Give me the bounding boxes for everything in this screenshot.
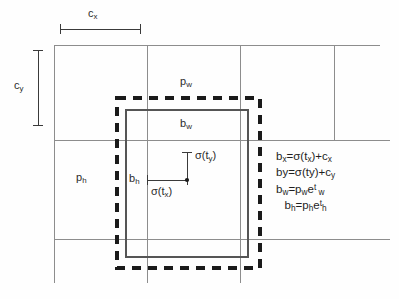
ph-label: ph [76, 172, 87, 185]
grid-lines [54, 45, 390, 283]
formula-bw: bw=pwet w [276, 183, 335, 197]
cy-label: cy [14, 80, 23, 93]
sigma-tx-measure [147, 175, 187, 185]
formula-block: bx=σ(tx)+cx by=σ(ty)+cy bw=pwet w bh=phe… [276, 150, 335, 216]
formula-bx: bx=σ(tx)+cx [276, 150, 335, 164]
box-center-dot [185, 178, 189, 182]
bw-label: bw [180, 118, 192, 131]
cx-measure-bracket [60, 24, 140, 34]
cy-measure-bracket [33, 50, 43, 125]
pw-label: pw [180, 76, 192, 89]
sigma-tx-label: σ(tx) [151, 186, 172, 199]
sigma-ty-label: σ(ty) [195, 150, 216, 163]
formula-bh: bh=pheth [276, 199, 335, 213]
diagram-canvas: cx cy pw ph bw bh σ(tx) σ(ty) bx=σ(tx)+c… [0, 0, 399, 299]
cx-label: cx [88, 8, 97, 21]
sigma-ty-measure [182, 152, 192, 180]
formula-by: by=σ(ty)+cy [276, 166, 335, 180]
bh-label: bh [129, 173, 140, 186]
